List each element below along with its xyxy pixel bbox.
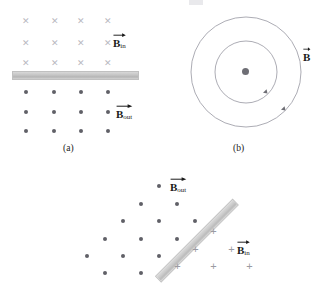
vector-arrow-icon bbox=[303, 46, 310, 51]
vector-arrow-icon bbox=[116, 103, 132, 108]
label-b: B bbox=[303, 48, 310, 64]
field-out-of-page-dot bbox=[157, 254, 161, 258]
panel-a: ✕ ✕ ✕ ✕ ✕ ✕ ✕ ✕ ✕ ✕ ✕ ✕ bbox=[0, 0, 160, 165]
current-out-of-page-dot bbox=[242, 68, 249, 75]
field-out-of-page-dot bbox=[79, 90, 83, 94]
field-into-page-cross: ✕ bbox=[76, 59, 85, 68]
b-symbol-text: B bbox=[303, 51, 310, 63]
vector-arrow-icon bbox=[113, 32, 126, 37]
field-out-of-page-dot bbox=[24, 110, 28, 114]
field-out-of-page-dot bbox=[52, 90, 56, 94]
field-into-page-cross: ✕ bbox=[103, 17, 112, 26]
panel-c: + + + + + + Bout Bin bbox=[0, 165, 317, 268]
field-into-page-cross: ✕ bbox=[103, 39, 112, 48]
caption-b: (b) bbox=[233, 143, 244, 153]
field-into-page-cross: ✕ bbox=[21, 17, 30, 26]
field-out-of-page-dot bbox=[106, 110, 110, 114]
field-out-of-page-dot bbox=[121, 219, 125, 223]
vector-arrow-icon bbox=[237, 239, 250, 244]
b-symbol: Bin bbox=[237, 245, 250, 257]
field-into-page-plus: + bbox=[245, 262, 254, 271]
field-out-of-page-dot bbox=[24, 129, 28, 133]
label-b-out: Bout bbox=[170, 178, 186, 194]
field-out-of-page-dot bbox=[121, 254, 125, 258]
conductor-bar-horizontal bbox=[12, 71, 139, 80]
field-into-page-cross: ✕ bbox=[21, 59, 30, 68]
field-into-page-cross: ✕ bbox=[76, 17, 85, 26]
field-out-of-page-dot bbox=[193, 219, 197, 223]
field-out-of-page-dot bbox=[24, 90, 28, 94]
field-out-of-page-dot bbox=[106, 129, 110, 133]
arrowhead-inner-icon bbox=[263, 89, 268, 93]
caption-a: (a) bbox=[63, 143, 74, 153]
field-out-of-page-dot bbox=[139, 271, 143, 275]
field-out-of-page-dot bbox=[175, 237, 179, 241]
field-out-of-page-dot bbox=[79, 129, 83, 133]
field-into-page-cross: ✕ bbox=[103, 59, 112, 68]
b-subscript: in bbox=[120, 42, 125, 50]
field-into-page-cross: ✕ bbox=[76, 39, 85, 48]
field-out-of-page-dot bbox=[175, 202, 179, 206]
b-subscript: out bbox=[123, 113, 132, 121]
field-out-of-page-dot bbox=[85, 254, 89, 258]
field-out-of-page-dot bbox=[106, 90, 110, 94]
field-out-of-page-dot bbox=[157, 184, 161, 188]
b-subscript: in bbox=[244, 249, 249, 257]
label-b-out: Bout bbox=[116, 105, 132, 121]
b-symbol: Bout bbox=[116, 109, 132, 121]
field-into-page-cross: ✕ bbox=[50, 59, 59, 68]
panel-b: B (b) bbox=[175, 0, 317, 165]
field-into-page-cross: ✕ bbox=[50, 39, 59, 48]
field-out-of-page-dot bbox=[52, 110, 56, 114]
field-out-of-page-dot bbox=[103, 237, 107, 241]
field-into-page-cross: ✕ bbox=[50, 17, 59, 26]
field-into-page-plus: + bbox=[209, 262, 218, 271]
b-subscript: out bbox=[177, 186, 186, 194]
field-into-page-plus: + bbox=[173, 262, 182, 271]
field-into-page-cross: ✕ bbox=[21, 39, 30, 48]
field-out-of-page-dot bbox=[103, 271, 107, 275]
label-b-in: Bin bbox=[113, 34, 126, 50]
b-symbol: B bbox=[303, 52, 310, 63]
field-out-of-page-dot bbox=[157, 219, 161, 223]
conductor-bar-diagonal bbox=[155, 199, 239, 283]
field-into-page-plus: + bbox=[209, 227, 218, 236]
field-out-of-page-dot bbox=[139, 202, 143, 206]
field-out-of-page-dot bbox=[79, 110, 83, 114]
vector-arrow-icon bbox=[170, 176, 186, 181]
arrowhead-outer-icon bbox=[281, 106, 286, 110]
field-out-of-page-dot bbox=[52, 129, 56, 133]
field-into-page-plus: + bbox=[227, 245, 236, 254]
b-symbol: Bin bbox=[113, 38, 126, 50]
label-b-in: Bin bbox=[237, 241, 250, 257]
b-symbol: Bout bbox=[170, 182, 186, 194]
field-into-page-plus: + bbox=[191, 245, 200, 254]
field-out-of-page-dot bbox=[139, 237, 143, 241]
circular-field-lines bbox=[175, 0, 317, 165]
